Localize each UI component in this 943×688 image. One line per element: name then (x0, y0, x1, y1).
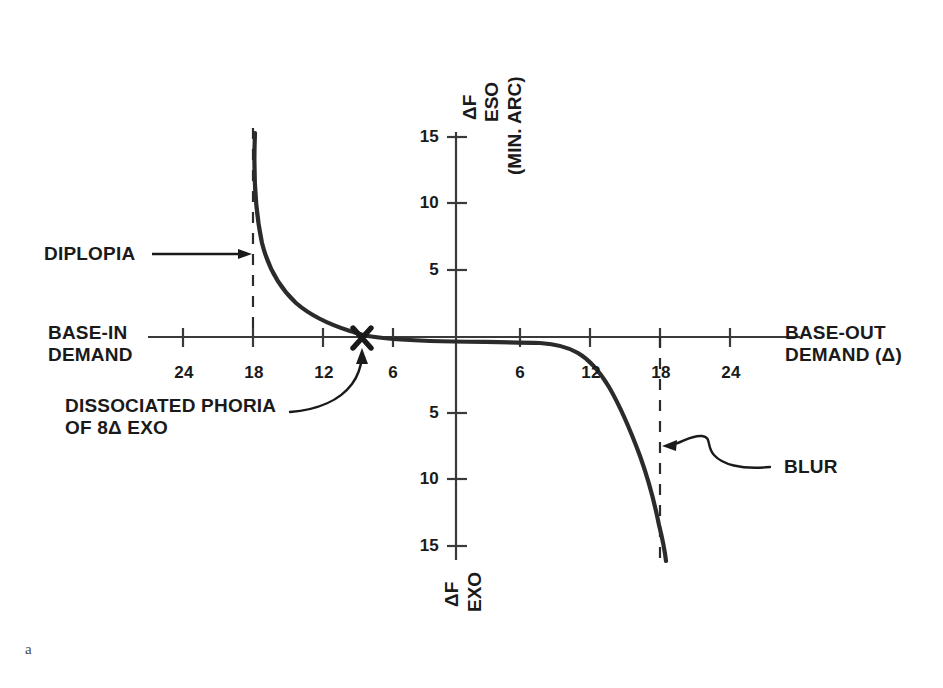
x-tick-label-base-out-18: 18 (646, 363, 676, 383)
blur-annotation-label: BLUR (784, 456, 838, 478)
y-tick-label-eso-5: 5 (409, 260, 439, 280)
x-tick-label-base-in-12: 12 (309, 363, 339, 383)
x-axis-label-base-in-line1: BASE-IN (48, 322, 128, 344)
x-axis-label-base-out-line1: BASE-OUT (785, 322, 886, 344)
dissociated-phoria-annotation-line2: OF 8Δ EXO (65, 417, 168, 439)
y-axis-label-exo-deltaF: ΔF (441, 582, 463, 607)
x-tick-label-base-out-6: 6 (508, 363, 532, 383)
x-tick-label-base-out-24: 24 (716, 363, 746, 383)
y-tick-label-exo-10: 10 (409, 469, 439, 489)
diplopia-annotation-label: DIPLOPIA (44, 243, 135, 265)
figure-letter-label: a (25, 641, 32, 658)
x-tick-label-base-in-18: 18 (239, 363, 269, 383)
y-tick-label-eso-10: 10 (409, 193, 439, 213)
figure-container: 24 18 12 6 6 12 18 24 15 10 5 5 10 15 BA… (0, 0, 943, 688)
y-tick-label-exo-15: 15 (409, 536, 439, 556)
dissociated-phoria-annotation-line1: DISSOCIATED PHORIA (65, 395, 276, 417)
x-tick-label-base-in-6: 6 (381, 363, 405, 383)
y-axis-label-min-arc: (MIN. ARC) (504, 77, 526, 176)
y-tick-label-exo-5: 5 (409, 403, 439, 423)
y-tick-label-eso-15: 15 (409, 127, 439, 147)
x-axis-label-base-out-line2: DEMAND (Δ) (785, 344, 902, 366)
blur-arrow (662, 436, 770, 468)
y-axis-label-eso: ESO (481, 82, 503, 122)
x-tick-label-base-out-12: 12 (576, 363, 606, 383)
diplopia-arrow (152, 249, 252, 259)
y-axis-label-exo: EXO (464, 572, 486, 612)
x-tick-label-base-in-24: 24 (169, 363, 199, 383)
x-axis-label-base-in-line2: DEMAND (48, 344, 133, 366)
forced-vergence-curve (254, 133, 666, 561)
y-axis-label-eso-deltaF: ΔF (459, 95, 481, 120)
